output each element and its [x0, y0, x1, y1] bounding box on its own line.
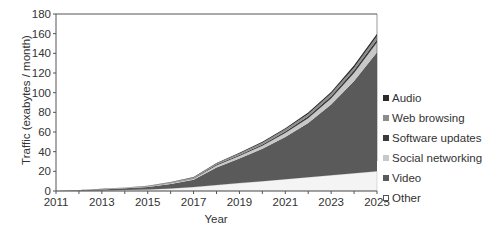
legend-label: Other	[392, 192, 421, 204]
svg-text:2015: 2015	[135, 196, 161, 208]
legend-swatch-icon	[383, 155, 389, 161]
svg-text:140: 140	[32, 47, 51, 59]
legend-item-software-updates: Software updates	[383, 128, 482, 148]
svg-text:20: 20	[38, 165, 51, 177]
legend-swatch-icon	[383, 95, 389, 101]
legend-swatch-icon	[383, 135, 389, 141]
legend-label: Social networking	[392, 152, 482, 164]
svg-text:60: 60	[38, 126, 51, 138]
svg-text:180: 180	[32, 8, 51, 20]
legend-item-social-networking: Social networking	[383, 148, 482, 168]
legend-label: Audio	[392, 92, 421, 104]
svg-text:2019: 2019	[227, 196, 253, 208]
legend-label: Video	[392, 172, 421, 184]
legend-item-video: Video	[383, 168, 482, 188]
legend-swatch-icon	[383, 195, 389, 201]
legend-swatch-icon	[383, 175, 389, 181]
svg-text:2013: 2013	[89, 196, 115, 208]
y-axis-label: Traffic (exabytes / month)	[20, 35, 32, 165]
svg-text:2017: 2017	[181, 196, 207, 208]
legend-item-audio: Audio	[383, 88, 482, 108]
svg-text:160: 160	[32, 28, 51, 40]
legend-label: Software updates	[392, 132, 482, 144]
svg-text:80: 80	[38, 106, 51, 118]
svg-text:40: 40	[38, 146, 51, 158]
legend: Audio Web browsing Software updates Soci…	[383, 88, 482, 208]
legend-item-web-browsing: Web browsing	[383, 108, 482, 128]
area-series-group	[56, 34, 377, 191]
area-video	[56, 52, 377, 191]
legend-swatch-icon	[383, 115, 389, 121]
svg-text:120: 120	[32, 67, 51, 79]
legend-label: Web browsing	[392, 112, 465, 124]
legend-item-other: Other	[383, 188, 482, 208]
x-axis-label: Year	[204, 213, 227, 225]
svg-text:2023: 2023	[318, 196, 344, 208]
svg-text:2011: 2011	[44, 196, 69, 208]
svg-text:100: 100	[32, 87, 51, 99]
svg-text:2021: 2021	[272, 196, 298, 208]
